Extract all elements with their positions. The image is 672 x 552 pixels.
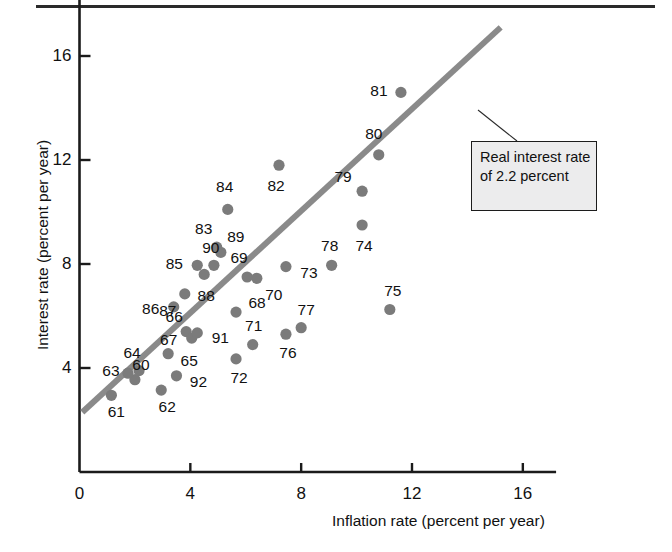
data-point-61[interactable] bbox=[106, 390, 117, 401]
point-label-81: 81 bbox=[370, 82, 387, 100]
point-label-88: 88 bbox=[198, 287, 215, 305]
point-label-68: 68 bbox=[248, 294, 265, 312]
point-label-64: 64 bbox=[123, 344, 140, 362]
point-label-76: 76 bbox=[279, 344, 296, 362]
point-label-65: 65 bbox=[181, 352, 198, 370]
point-label-90: 90 bbox=[202, 239, 219, 257]
x-axis-title: Inflation rate (percent per year) bbox=[332, 512, 545, 530]
data-point-75[interactable] bbox=[384, 304, 395, 315]
point-label-71: 71 bbox=[245, 317, 262, 335]
callout-text: Real interest rate of 2.2 percent bbox=[480, 148, 592, 186]
point-label-92: 92 bbox=[190, 373, 207, 391]
data-point-72[interactable] bbox=[230, 353, 241, 364]
data-point-85[interactable] bbox=[192, 260, 203, 271]
y-axis-title: Interest rate (percent per year) bbox=[34, 129, 52, 361]
x-tick-label-8: 8 bbox=[296, 484, 305, 504]
y-tick-label-4: 4 bbox=[34, 358, 72, 378]
data-point-68[interactable] bbox=[230, 307, 241, 318]
data-point-74[interactable] bbox=[357, 219, 368, 230]
point-label-85: 85 bbox=[166, 255, 183, 273]
point-label-73: 73 bbox=[300, 264, 317, 282]
real-interest-rate-callout: Real interest rate of 2.2 percent bbox=[471, 141, 597, 211]
data-point-87[interactable] bbox=[179, 288, 190, 299]
data-point-81[interactable] bbox=[395, 87, 406, 98]
data-point-92[interactable] bbox=[171, 370, 182, 381]
data-point-88[interactable] bbox=[199, 269, 210, 280]
data-point-90[interactable] bbox=[208, 260, 219, 271]
point-label-77: 77 bbox=[298, 301, 315, 319]
point-label-89: 89 bbox=[227, 228, 244, 246]
point-label-67: 67 bbox=[160, 331, 177, 349]
x-tick-label-12: 12 bbox=[403, 484, 422, 504]
data-point-79[interactable] bbox=[357, 186, 368, 197]
data-point-91[interactable] bbox=[192, 327, 203, 338]
point-label-79: 79 bbox=[335, 168, 352, 186]
point-label-75: 75 bbox=[384, 282, 401, 300]
point-label-84: 84 bbox=[216, 178, 233, 196]
data-point-69[interactable] bbox=[242, 271, 253, 282]
x-tick-label-0: 0 bbox=[75, 484, 84, 504]
callout-leader-line bbox=[478, 110, 517, 141]
data-point-62[interactable] bbox=[156, 385, 167, 396]
point-label-70: 70 bbox=[265, 286, 282, 304]
x-tick-label-4: 4 bbox=[186, 484, 195, 504]
point-label-62: 62 bbox=[159, 398, 176, 416]
data-point-71[interactable] bbox=[247, 339, 258, 350]
point-label-69: 69 bbox=[231, 249, 248, 267]
point-label-91: 91 bbox=[212, 329, 229, 347]
axes-group bbox=[80, 0, 557, 472]
data-point-76[interactable] bbox=[280, 329, 291, 340]
point-label-72: 72 bbox=[230, 369, 247, 387]
y-tick-label-16: 16 bbox=[34, 46, 72, 66]
point-label-82: 82 bbox=[267, 177, 284, 195]
data-point-82[interactable] bbox=[273, 160, 284, 171]
scatter-plot-canvas bbox=[0, 0, 672, 552]
point-label-61: 61 bbox=[108, 403, 125, 421]
data-point-70[interactable] bbox=[251, 273, 262, 284]
data-point-78[interactable] bbox=[326, 260, 337, 271]
point-label-80: 80 bbox=[365, 125, 382, 143]
point-label-83: 83 bbox=[195, 220, 212, 238]
x-tick-label-16: 16 bbox=[513, 484, 532, 504]
data-point-84[interactable] bbox=[222, 204, 233, 215]
point-label-74: 74 bbox=[356, 237, 373, 255]
point-label-63: 63 bbox=[102, 362, 119, 380]
figure-container: 0481216481216 60616263646566676869707172… bbox=[0, 0, 672, 552]
data-point-73[interactable] bbox=[280, 261, 291, 272]
point-label-86: 86 bbox=[142, 300, 159, 318]
data-point-65[interactable] bbox=[163, 348, 174, 359]
point-label-78: 78 bbox=[321, 237, 338, 255]
data-point-80[interactable] bbox=[373, 149, 384, 160]
point-label-87: 87 bbox=[159, 302, 176, 320]
data-point-77[interactable] bbox=[296, 322, 307, 333]
callout-leader-group bbox=[478, 110, 517, 141]
